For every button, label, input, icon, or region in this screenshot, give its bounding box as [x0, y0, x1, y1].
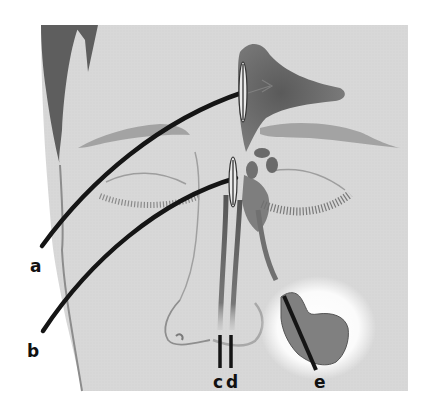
label-a: a — [30, 256, 41, 276]
label-c: c — [213, 372, 223, 392]
label-d: d — [226, 372, 238, 392]
ethmoid-cell-2 — [266, 157, 278, 173]
ethmoid-cell-1 — [254, 148, 270, 158]
label-e: e — [314, 372, 326, 392]
label-b: b — [27, 341, 39, 361]
sinus-anatomy-diagram: a b c d e — [0, 0, 426, 407]
ethmoid-cell-3 — [246, 161, 258, 179]
